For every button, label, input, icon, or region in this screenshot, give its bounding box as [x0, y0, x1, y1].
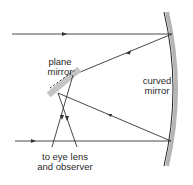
arrow-icon	[31, 139, 36, 143]
arrow-icon	[65, 116, 69, 121]
reflected-ray-top	[73, 34, 172, 75]
arrow-icon	[62, 32, 67, 36]
curved-mirror-label: curved mirror	[137, 76, 177, 96]
telescope-diagram: plane mirror curved mirror to eye lens a…	[0, 0, 193, 185]
arrow-icon	[107, 114, 112, 117]
observer-label: to eye lens and observer	[30, 152, 100, 172]
arrow-icon	[126, 50, 131, 55]
reflected-ray-bottom	[58, 93, 171, 141]
plane-mirror-label: plane mirror	[40, 57, 80, 77]
output-ray-right	[58, 93, 77, 147]
